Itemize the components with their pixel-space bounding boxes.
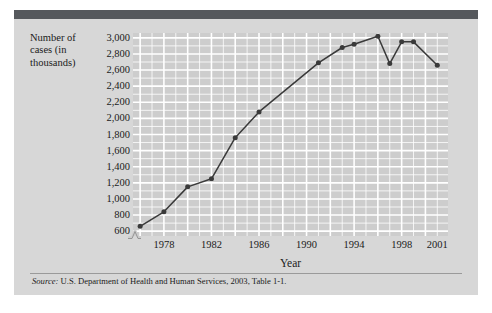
data-point xyxy=(316,60,321,65)
data-point xyxy=(411,39,416,44)
data-point xyxy=(435,63,440,68)
data-point xyxy=(352,42,357,47)
y-tick-label: 3,000 xyxy=(88,33,130,43)
x-tick-label: 1978 xyxy=(153,239,174,250)
figure-header-bar xyxy=(14,10,478,19)
y-tick-label: 600 xyxy=(88,226,130,236)
x-tick-label: 1990 xyxy=(296,239,317,250)
x-tick-label: 1998 xyxy=(391,239,412,250)
x-tick-label: 1982 xyxy=(201,239,222,250)
data-point xyxy=(375,34,380,39)
data-point xyxy=(161,209,166,214)
data-point xyxy=(185,184,190,189)
y-axis-tick-labels: 6008001,0001,2001,4001,6001,8002,0002,20… xyxy=(84,33,130,236)
plot-area xyxy=(133,33,448,236)
x-axis-title: Year xyxy=(133,257,448,269)
source-text: U.S. Department of Health and Human Serv… xyxy=(58,276,286,286)
data-point xyxy=(209,176,214,181)
x-tick-label: 2001 xyxy=(427,239,448,250)
y-tick-label: 2,000 xyxy=(88,113,130,123)
y-tick-label: 1,200 xyxy=(88,178,130,188)
x-tick-label: 1986 xyxy=(249,239,270,250)
data-point xyxy=(399,39,404,44)
data-point xyxy=(340,45,345,50)
data-series-line xyxy=(133,33,448,236)
data-point xyxy=(387,61,392,66)
source-label: Source: xyxy=(32,276,58,286)
data-point xyxy=(233,135,238,140)
y-tick-label: 1,600 xyxy=(88,146,130,156)
y-tick-label: 2,400 xyxy=(88,81,130,91)
y-tick-label: 1,400 xyxy=(88,162,130,172)
figure-panel: Number ofcases (inthousands) 6008001,000… xyxy=(14,10,478,295)
x-tick-label: 1994 xyxy=(344,239,365,250)
y-tick-label: 800 xyxy=(88,210,130,220)
y-tick-label: 2,800 xyxy=(88,49,130,59)
y-tick-label: 2,200 xyxy=(88,97,130,107)
source-note: Source: U.S. Department of Health and Hu… xyxy=(32,276,462,286)
y-tick-label: 1,800 xyxy=(88,130,130,140)
axis-break-icon xyxy=(127,226,141,240)
source-divider xyxy=(30,273,462,274)
x-axis-tick-labels: 1978198219861990199419982001 xyxy=(133,239,463,253)
data-point xyxy=(257,109,262,114)
y-tick-label: 1,000 xyxy=(88,194,130,204)
y-tick-label: 2,600 xyxy=(88,65,130,75)
